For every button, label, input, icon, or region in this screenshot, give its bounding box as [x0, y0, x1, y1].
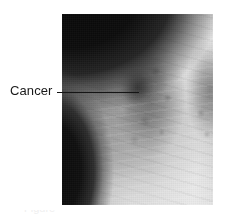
figure-caption-text: Figure	[24, 210, 174, 214]
figure-root: Cancer Figure	[0, 0, 229, 222]
annotation-leader-line	[57, 92, 139, 93]
chest-xray-image	[62, 14, 213, 205]
xray-film-softening-layer	[62, 14, 213, 205]
figure-caption-cutoff: Figure	[24, 210, 174, 222]
annotation-label-cancer: Cancer	[10, 84, 53, 98]
